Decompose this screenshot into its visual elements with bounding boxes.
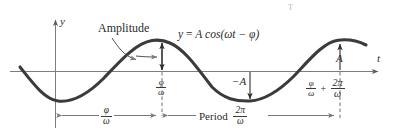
equation-lhs: y	[178, 28, 183, 40]
period-label-group: Period 2π ω	[196, 106, 250, 126]
equation-rhs: A cos(ωt − φ)	[195, 28, 259, 40]
equation-equals: =	[186, 28, 193, 40]
period-denominator: ω	[233, 117, 247, 127]
amplitude-value-label: A	[336, 53, 343, 64]
phase-shift-axis-denominator: ω	[156, 88, 166, 97]
period-word: Period	[199, 111, 228, 122]
second-peak-expression: φ ω + 2π ω	[306, 78, 345, 99]
stray-t-artifact: T	[288, 4, 293, 12]
cosine-wave-diagram: T y t Amplitude y = A cos(ωt − φ) φ ω −A…	[0, 0, 398, 138]
equation-label: y = A cos(ωt − φ)	[178, 29, 259, 41]
right-first-denominator: ω	[306, 89, 316, 98]
t-axis-label: t	[377, 53, 380, 64]
right-second-denominator: ω	[331, 89, 345, 99]
phase-shift-axis-fraction: φ ω	[156, 78, 166, 97]
plus-sign: +	[319, 84, 329, 94]
phase-shift-numerator: φ	[101, 106, 112, 117]
amplitude-label: Amplitude	[98, 22, 149, 34]
amplitude-leader-arrow2	[136, 56, 157, 57]
period-numerator: 2π	[233, 106, 247, 117]
phase-shift-denominator: ω	[101, 117, 112, 127]
negative-amplitude-label: −A	[232, 76, 246, 87]
phase-shift-dimension-fraction: φ ω	[99, 106, 114, 126]
y-axis-label: y	[60, 16, 65, 27]
